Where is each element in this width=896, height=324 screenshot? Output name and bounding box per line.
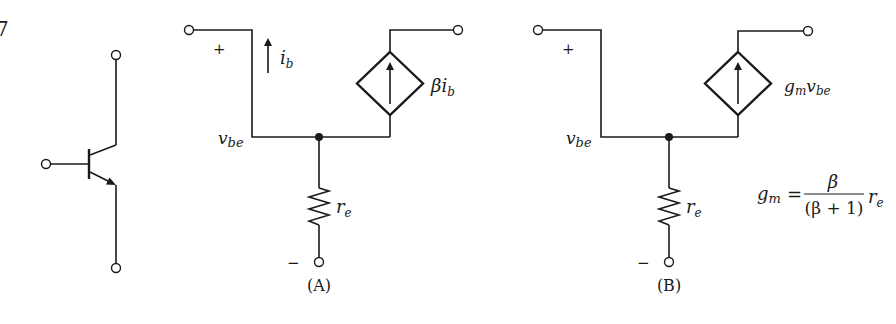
equation-equals: = bbox=[787, 184, 802, 205]
vbe-label-b: vbe bbox=[566, 128, 592, 150]
collector-diagonal bbox=[90, 145, 116, 155]
output-terminal-a bbox=[454, 26, 463, 35]
base-current-label-a: ib bbox=[280, 47, 293, 71]
vbe-label-a: vbe bbox=[218, 128, 244, 150]
resistor-label-b: re bbox=[686, 196, 702, 220]
resistor-re-b bbox=[659, 188, 679, 225]
output-wire-a bbox=[390, 30, 454, 52]
emitter-terminal bbox=[112, 264, 121, 273]
source-label-b: gmvbe bbox=[784, 76, 831, 98]
equation-denominator: (β + 1) bbox=[805, 198, 864, 218]
plus-sign-b: + bbox=[562, 40, 575, 58]
bjt-transistor-symbol bbox=[42, 51, 121, 273]
input-terminal-b bbox=[534, 26, 543, 35]
output-terminal-b bbox=[804, 27, 813, 36]
gm-equation: gm = β (β + 1) re bbox=[757, 171, 884, 218]
figure-number-fragment: 7 bbox=[0, 17, 9, 41]
circuit-a-hybrid-pi-model: + ib vbe βib re − (A) bbox=[185, 26, 463, 296]
caption-b: (B) bbox=[657, 276, 681, 295]
resistor-re-a bbox=[309, 188, 329, 225]
equation-lhs: gm bbox=[757, 183, 781, 206]
base-terminal bbox=[42, 160, 51, 169]
ground-terminal-b bbox=[665, 258, 674, 267]
input-terminal-a bbox=[185, 26, 194, 35]
minus-sign-a: − bbox=[287, 254, 300, 272]
output-wire-b bbox=[738, 31, 804, 52]
source-label-a: βib bbox=[430, 75, 455, 99]
equation-rhs: re bbox=[868, 186, 884, 210]
equation-numerator: β bbox=[827, 171, 838, 192]
plus-sign-a: + bbox=[213, 40, 226, 58]
minus-sign-b: − bbox=[637, 254, 650, 272]
circuit-b-t-model: + vbe gmvbe re − (B) gm = β bbox=[534, 26, 884, 296]
ground-terminal-a bbox=[315, 258, 324, 267]
collector-terminal bbox=[112, 51, 121, 60]
bjt-small-signal-models-diagram: 7 + ib vbe βib bbox=[0, 0, 896, 324]
resistor-label-a: re bbox=[336, 196, 352, 220]
caption-a: (A) bbox=[307, 276, 331, 295]
